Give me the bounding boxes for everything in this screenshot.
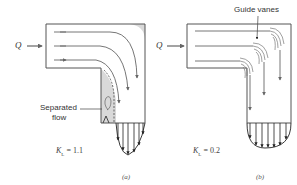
guide-vanes-label: Guide vanes	[234, 6, 279, 14]
velocity-profile-a	[116, 123, 145, 155]
caption-b: (b)	[256, 173, 264, 181]
flow-rate-label-a: Q	[15, 41, 22, 50]
separated-flow-label-line2: flow	[52, 114, 66, 122]
guide-vanes	[240, 28, 284, 78]
elbow-b	[167, 16, 291, 148]
loss-coefficient-a: KL = 1.1	[56, 146, 83, 157]
corner-dead-zone	[130, 24, 145, 39]
elbow-wall-b	[187, 24, 291, 123]
loss-coefficient-b: KL = 0.2	[193, 146, 220, 157]
caption-a: (a)	[122, 173, 130, 181]
annotation-leader	[257, 16, 258, 39]
velocity-vectors-b	[250, 123, 286, 147]
separated-flow-label-line1: Separated	[40, 104, 77, 112]
elbow-a	[27, 24, 145, 155]
velocity-profile-b	[247, 123, 291, 148]
flow-rate-label-b: Q	[156, 41, 163, 50]
diagram-canvas	[0, 0, 297, 185]
